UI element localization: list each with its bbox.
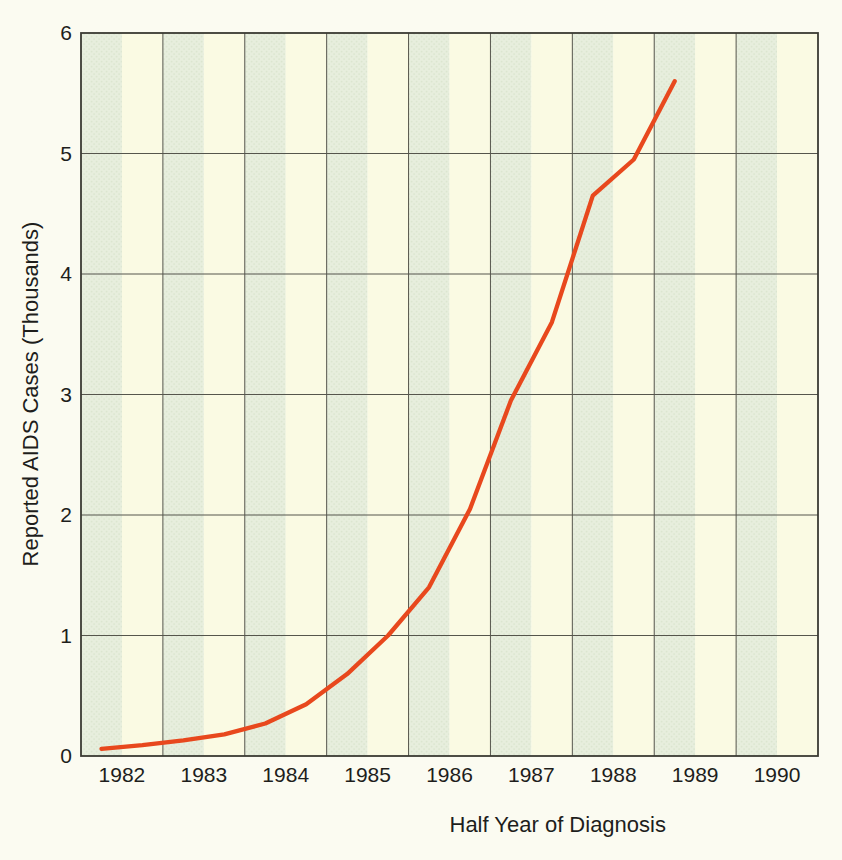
y-tick-label-5: 5: [28, 143, 72, 165]
x-tick-label-1984: 1984: [245, 764, 327, 786]
y-tick-label-0: 0: [28, 745, 72, 767]
x-tick-label-1985: 1985: [327, 764, 409, 786]
y-axis-title: Reported AIDS Cases (Thousands): [18, 222, 44, 567]
x-tick-label-1983: 1983: [163, 764, 245, 786]
line-chart-plot-area: [0, 0, 842, 860]
x-tick-label-1989: 1989: [654, 764, 736, 786]
y-tick-label-6: 6: [28, 22, 72, 44]
aids-cases-chart-figure: 0123456 19821983198419851986198719881989…: [0, 0, 842, 860]
y-tick-label-1: 1: [28, 625, 72, 647]
x-tick-label-1982: 1982: [81, 764, 163, 786]
x-tick-label-1988: 1988: [572, 764, 654, 786]
x-tick-label-1987: 1987: [490, 764, 572, 786]
x-tick-label-1990: 1990: [736, 764, 818, 786]
x-tick-label-1986: 1986: [409, 764, 491, 786]
